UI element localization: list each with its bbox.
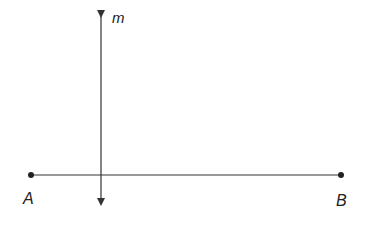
point-b-label: B bbox=[336, 193, 347, 209]
line-m-label: m bbox=[112, 10, 125, 25]
point-b-dot bbox=[338, 172, 344, 178]
diagram-canvas bbox=[0, 0, 370, 228]
point-a-label: A bbox=[23, 191, 34, 207]
point-a-dot bbox=[28, 172, 34, 178]
